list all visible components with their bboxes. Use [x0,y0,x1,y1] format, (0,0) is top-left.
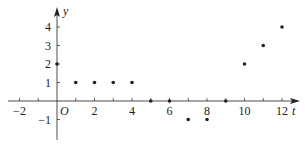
x-tick-label: 6 [167,104,173,118]
data-point [280,25,284,29]
data-point [224,99,228,103]
x-tick-label: 2 [92,104,98,118]
data-point [55,62,59,66]
axes [8,7,300,140]
x-tick-label: −2 [13,104,26,118]
data-point [205,118,209,122]
y-tick-label: −1 [38,113,51,127]
data-point [130,81,134,85]
data-point [93,81,97,85]
y-tick-label: 2 [45,57,51,71]
x-axis-label: t [292,104,296,118]
scatter-chart: −224681012−11234 t y O [0,0,305,149]
data-point [149,99,153,103]
x-tick-label: 8 [204,104,210,118]
data-point [261,44,265,48]
data-point [243,62,247,66]
y-tick-label: 4 [45,20,51,34]
x-tick-label: 4 [129,104,135,118]
x-tick-label: 12 [276,104,288,118]
y-tick-label: 1 [45,76,51,90]
y-tick-label: 3 [45,39,51,53]
tick-labels: −224681012−11234 [13,20,288,127]
y-axis-label: y [62,4,69,18]
x-tick-label: 10 [239,104,251,118]
data-point [111,81,115,85]
data-point [168,99,172,103]
data-point [186,118,190,122]
origin-label: O [60,104,69,118]
data-point [74,81,78,85]
